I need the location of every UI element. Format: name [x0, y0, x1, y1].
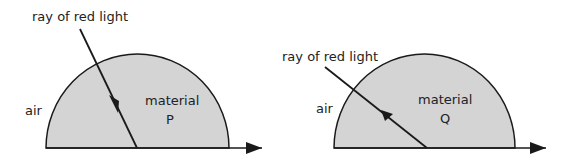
material-label-p: material	[145, 93, 199, 108]
air-label-p: air	[25, 103, 43, 118]
refraction-diagrams: ray of red light air material P ray of r…	[0, 0, 573, 165]
diagram-material-q: ray of red light air material Q	[282, 49, 546, 154]
ray-label-p: ray of red light	[32, 9, 128, 24]
air-label-q: air	[316, 101, 334, 116]
material-letter-p: P	[166, 112, 174, 127]
diagram-material-p: ray of red light air material P	[25, 9, 262, 154]
material-label-q: material	[418, 92, 472, 107]
axis-arrowhead-q	[530, 142, 546, 154]
axis-arrowhead-p	[246, 142, 262, 154]
semicircle-block-p	[46, 54, 229, 148]
ray-label-q: ray of red light	[282, 49, 378, 64]
material-letter-q: Q	[440, 111, 450, 126]
